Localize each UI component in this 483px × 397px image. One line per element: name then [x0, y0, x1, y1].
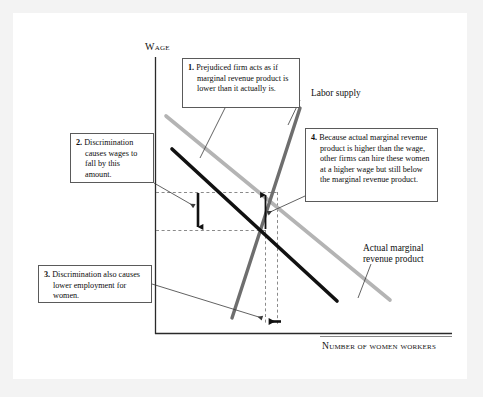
guide-lines-group [156, 192, 278, 325]
callout-4-text: Because actual marginal revenue product … [319, 133, 429, 184]
leader-callout-2 [154, 183, 194, 206]
actual-mrp-label: Actual marginal revenue product [363, 243, 424, 265]
x-axis-label: Number of women workers [322, 340, 436, 351]
callout-3-text: Discrimination also causes lower employm… [52, 270, 140, 300]
callout-2-number: 2. [76, 138, 82, 147]
figure-container: Wage Number of women workers Labor suppl… [0, 0, 483, 397]
callout-box-3: 3. Discrimination also causes lower empl… [38, 265, 152, 303]
callout-1-number: 1. [188, 63, 194, 72]
labor-supply-label: Labor supply [311, 88, 361, 99]
callout-box-2: 2. Discrimination causes wages to fall b… [70, 133, 154, 183]
callout-3-number: 3. [44, 270, 50, 279]
callout-box-1: 1. Prejudiced firm acts as if marginal r… [182, 58, 300, 108]
leader-callout-3 [152, 284, 262, 318]
callout-2-text: Discrimination causes wages to fall by t… [84, 138, 137, 179]
callout-1-text: Prejudiced firm acts as if marginal reve… [196, 63, 288, 93]
callout-box-4: 4. Because actual marginal revenue produ… [305, 128, 438, 202]
y-axis-label: Wage [145, 41, 170, 52]
leader-callout-1 [200, 108, 225, 158]
callout-4-number: 4. [311, 133, 317, 142]
